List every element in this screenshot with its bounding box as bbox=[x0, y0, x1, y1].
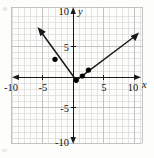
data-point bbox=[80, 73, 85, 78]
y-axis-label: y bbox=[77, 6, 83, 17]
y-axis-arrow-up bbox=[71, 7, 76, 14]
x-tick-label--10: -10 bbox=[4, 82, 18, 93]
data-point bbox=[86, 68, 91, 73]
y-tick-label--10: -10 bbox=[55, 137, 69, 148]
x-axis-arrow-right bbox=[134, 75, 141, 80]
grid-lines bbox=[11, 7, 142, 143]
data-point bbox=[52, 57, 57, 62]
coordinate-graph-figure: -10 -5 5 10 10 5 -5 -10 y x bbox=[0, 0, 154, 158]
curve-left-branch bbox=[42, 33, 77, 81]
graph-canvas: -10 -5 5 10 10 5 -5 -10 y x bbox=[0, 0, 154, 158]
x-tick-label--5: -5 bbox=[38, 82, 47, 93]
x-tick-label-5: 5 bbox=[101, 82, 106, 93]
y-tick-label--5: -5 bbox=[60, 103, 69, 114]
y-tick-label-5: 5 bbox=[64, 42, 69, 53]
x-axis-label: x bbox=[141, 79, 147, 90]
scan-speckle-bottom bbox=[2, 149, 7, 152]
scan-speckle-top bbox=[3, 7, 7, 11]
curve-right-branch bbox=[76, 37, 134, 81]
data-point bbox=[74, 78, 79, 83]
axes bbox=[12, 7, 141, 144]
x-tick-label-10: 10 bbox=[128, 82, 139, 93]
y-tick-label-10: 10 bbox=[59, 6, 70, 17]
x-axis-arrow-left bbox=[12, 75, 19, 80]
